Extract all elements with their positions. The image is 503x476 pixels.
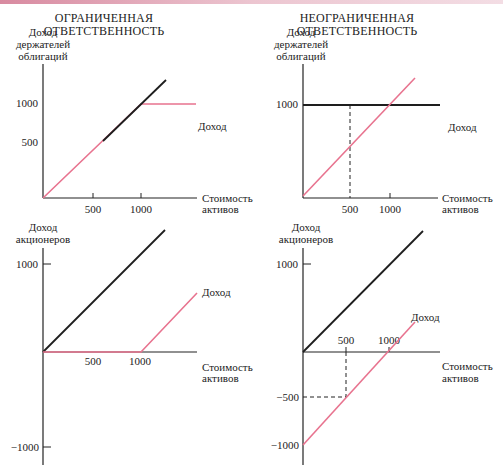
ylabel-line1: Доход <box>29 221 58 233</box>
ylabel-line2: акционеров <box>16 233 70 245</box>
xlabel-line2: активов <box>442 372 479 384</box>
asset-value-line-black <box>103 80 166 141</box>
ylabel-line2: держателей <box>274 38 328 50</box>
panel-bottom-left-limited-shareholders: Доход акционеров 1000 −1000 500 1000 Дох… <box>11 221 253 465</box>
ylabel-line2: держателей <box>16 38 70 50</box>
ylabel-line1: Доход <box>292 221 321 233</box>
x-tick-label-500: 500 <box>85 203 102 215</box>
xlabel-line1: Стоимость <box>442 360 493 372</box>
panel-top-left-limited-bondholders: ОГРАНИЧЕННАЯ ОТВЕТСТВЕННОСТЬ Доход держа… <box>16 11 253 215</box>
income-line-pink <box>43 293 197 352</box>
asset-value-line-pink <box>303 78 415 196</box>
title-line1: ОГРАНИЧЕННАЯ <box>55 11 153 25</box>
x-tick-label-1000: 1000 <box>129 355 152 367</box>
series-label: Доход <box>411 311 440 323</box>
ylabel-line3: облигаций <box>276 50 325 62</box>
x-tick-label-500: 500 <box>85 355 102 367</box>
asset-value-line-black <box>43 230 165 352</box>
panel-top-right-unlimited-bondholders: НЕОГРАНИЧЕННАЯ ОТВЕТСТВЕННОСТЬ Доход дер… <box>274 11 493 215</box>
xlabel-line2: активов <box>202 203 239 215</box>
x-tick-label-500: 500 <box>342 203 359 215</box>
ylabel-line1: Доход <box>287 26 316 38</box>
y-tick-label-1000: 1000 <box>16 97 39 109</box>
xlabel-line2: активов <box>442 203 479 215</box>
ylabel-line2: акционеров <box>279 233 333 245</box>
ylabel-line1: Доход <box>29 26 58 38</box>
y-tick-label-neg1000: −1000 <box>11 441 40 453</box>
y-tick-label-500: 500 <box>22 136 39 148</box>
title-line2: ОТВЕТСТВЕННОСТЬ <box>44 24 165 38</box>
ylabel-line3: облигаций <box>18 50 67 62</box>
y-tick-label-1000: 1000 <box>276 258 299 270</box>
title-line1: НЕОГРАНИЧЕННАЯ <box>300 11 415 25</box>
xlabel-line2: активов <box>202 372 239 384</box>
series-label: Доход <box>198 120 227 132</box>
x-tick-label-1000: 1000 <box>130 203 153 215</box>
series-label: Доход <box>448 121 477 133</box>
y-tick-label-neg500: −500 <box>276 391 299 403</box>
series-label: Доход <box>202 286 231 298</box>
diagram-canvas: ОГРАНИЧЕННАЯ ОТВЕТСТВЕННОСТЬ Доход держа… <box>0 0 503 476</box>
y-tick-label-neg1000: −1000 <box>271 439 300 451</box>
y-tick-label-1000: 1000 <box>276 98 299 110</box>
x-tick-label-1000: 1000 <box>378 334 401 346</box>
x-tick-label-1000: 1000 <box>379 203 402 215</box>
x-tick-label-500: 500 <box>338 334 355 346</box>
y-tick-label-1000: 1000 <box>16 258 39 270</box>
income-line-pink <box>43 104 196 198</box>
income-line-pink <box>303 322 415 445</box>
panel-bottom-right-unlimited-shareholders: Доход акционеров 1000 −500 −1000 500 100… <box>271 221 493 465</box>
